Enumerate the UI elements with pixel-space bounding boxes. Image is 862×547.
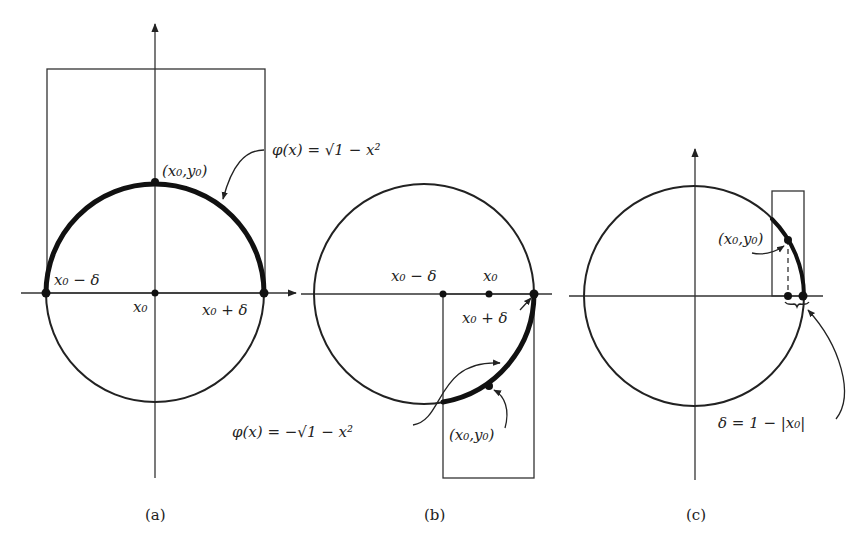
short-arc [772,219,804,296]
point-x0-plus-delta [530,290,539,299]
label-center: x₀ [483,267,497,285]
point-leader-arrow [494,390,507,428]
point-x0-minus-delta [440,291,447,298]
formula-leader-arrow [223,150,264,199]
formula-lower: φ(x) = −√1 − x² [232,423,353,441]
point-x0-plus-delta [260,289,269,298]
point-x0-minus-delta [42,289,51,298]
caption-b: (b) [424,506,445,524]
point-edge [799,292,808,301]
point-x0 [152,290,159,297]
label-point: (x₀,y₀) [718,230,764,248]
formula-upper: φ(x) = √1 − x² [272,141,380,159]
label-point: (x₀,y₀) [449,426,495,444]
implicit-function-circle-figure: (x₀,y₀) φ(x) = √1 − x² x₀ − δ x₀ x₀ + δ … [0,0,862,547]
plus-delta-leader-arrow [520,298,531,310]
label-right: x₀ + δ [462,309,508,327]
point-x0-y0 [151,178,159,186]
point-x0 [486,291,493,298]
delta-leader-arrow [808,310,844,419]
panel-b: x₀ − δ x₀ x₀ + δ φ(x) = −√1 − x² (x₀,y₀)… [232,184,552,524]
point-x0 [784,292,792,300]
caption-c: (c) [686,506,706,524]
label-center: x₀ [133,298,147,316]
point-x0-y0 [485,382,493,390]
label-left: x₀ − δ [391,267,437,285]
point-x0-y0 [784,236,792,244]
panel-a: (x₀,y₀) φ(x) = √1 − x² x₀ − δ x₀ x₀ + δ … [21,24,380,524]
formula-leader-arrow [413,363,500,425]
label-point: (x₀,y₀) [162,162,208,180]
delta-brace [785,302,809,307]
caption-a: (a) [145,506,166,524]
panel-c: (x₀,y₀) δ = 1 − |x₀| (c) [569,149,844,524]
label-left: x₀ − δ [54,271,100,289]
formula-delta: δ = 1 − |x₀| [718,414,805,432]
label-right: x₀ + δ [202,301,248,319]
